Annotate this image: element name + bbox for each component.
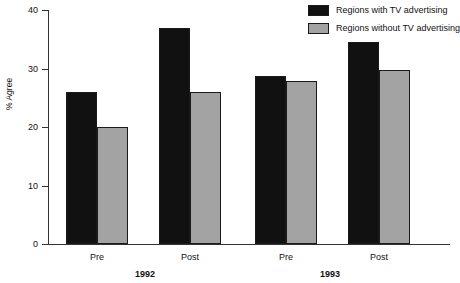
bar-1992-pre-with-tv xyxy=(66,92,97,244)
bar-1993-post-with-tv xyxy=(348,42,379,244)
y-tick-label-10: 10 xyxy=(4,182,38,191)
x-axis-line xyxy=(48,244,450,245)
x-tick-label-1992-post: Post xyxy=(160,252,220,262)
y-tick-label-40: 40 xyxy=(4,6,38,15)
x-tick-label-1993-post: Post xyxy=(349,252,409,262)
bar-1993-pre-with-tv xyxy=(255,76,286,244)
y-tick-label-30: 30 xyxy=(4,65,38,74)
bar-1992-pre-without-tv xyxy=(97,127,128,244)
y-axis-title: % Agree xyxy=(4,78,14,110)
x-group-label-1992: 1992 xyxy=(115,269,175,279)
bar-1992-post-without-tv xyxy=(190,92,221,244)
x-group-label-1993: 1993 xyxy=(300,269,360,279)
y-tick-20 xyxy=(42,127,48,128)
x-tick-label-1992-pre: Pre xyxy=(67,252,127,262)
y-tick-label-20: 20 xyxy=(4,123,38,132)
bar-1992-post-with-tv xyxy=(159,28,190,244)
y-tick-30 xyxy=(42,69,48,70)
y-tick-0 xyxy=(42,244,48,245)
y-tick-label-0: 0 xyxy=(4,240,38,249)
plot-area: % Agree 0 10 20 30 40 Pre Post Pre Post … xyxy=(48,10,450,244)
y-tick-10 xyxy=(42,186,48,187)
y-axis-line xyxy=(48,10,49,244)
x-tick-label-1993-pre: Pre xyxy=(256,252,316,262)
bar-1993-post-without-tv xyxy=(379,70,410,244)
y-tick-40 xyxy=(42,10,48,11)
bar-1993-pre-without-tv xyxy=(286,81,317,244)
